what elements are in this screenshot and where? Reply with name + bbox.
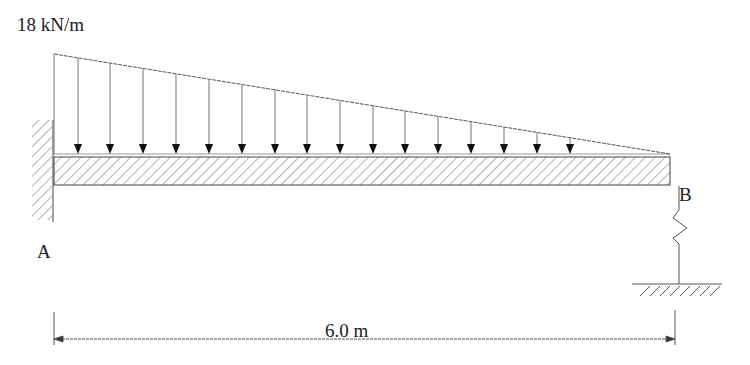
load-arrow-icon: [106, 144, 114, 154]
span-length-label: 6.0 m: [325, 320, 368, 342]
support-B-label: B: [679, 184, 692, 206]
beam: [54, 154, 670, 185]
load-arrow-icon: [533, 144, 541, 154]
load-arrow-icon: [205, 144, 213, 154]
load-magnitude-label: 18 kN/m: [17, 14, 84, 36]
load-arrow-icon: [172, 144, 180, 154]
load-arrow-icon: [271, 144, 279, 154]
load-arrow-icon: [139, 144, 147, 154]
load-arrow-icon: [74, 144, 82, 154]
load-arrow-icon: [401, 144, 409, 154]
load-arrows: [74, 58, 574, 154]
load-arrow-icon: [467, 144, 475, 154]
fixed-support-A: [32, 120, 53, 222]
load-arrow-icon: [434, 144, 442, 154]
load-arrow-icon: [303, 144, 311, 154]
beam-diagram: [0, 0, 750, 365]
load-arrow-icon: [238, 144, 246, 154]
load-arrow-icon: [500, 144, 508, 154]
ground-hatch: [640, 286, 720, 296]
load-arrow-icon: [336, 144, 344, 154]
support-A-label: A: [37, 241, 51, 263]
distributed-load: [54, 54, 670, 154]
spring-support-B: [632, 186, 722, 296]
load-arrow-icon: [566, 144, 574, 154]
load-arrow-icon: [369, 144, 377, 154]
